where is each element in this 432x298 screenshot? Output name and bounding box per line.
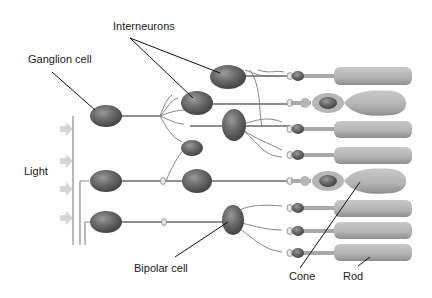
rod — [291, 67, 412, 85]
interneuron-cell — [181, 91, 213, 115]
cone — [291, 91, 406, 116]
interneuron-cell — [210, 65, 246, 89]
cone — [291, 169, 406, 194]
bipolar-cell-body — [222, 205, 244, 235]
rod — [291, 222, 412, 239]
dendrites — [160, 70, 284, 252]
label-cone: Cone — [289, 270, 315, 282]
ganglion-cell — [90, 105, 122, 127]
ganglion-cell — [90, 170, 122, 192]
rod — [291, 200, 412, 217]
interneuron-cells — [181, 65, 246, 235]
interneuron-cell — [181, 140, 203, 156]
ganglion-axons — [73, 116, 92, 245]
light-arrow-icon — [60, 182, 73, 196]
light-arrow-icon — [60, 211, 73, 225]
rod — [291, 121, 412, 138]
label-bipolar-cell: Bipolar cell — [134, 262, 188, 274]
light-arrow-icon — [60, 122, 73, 136]
light-arrow-icon — [60, 154, 73, 168]
photoreceptors — [291, 67, 412, 261]
interneuron-cell — [182, 169, 212, 193]
label-ganglion-cell: Ganglion cell — [28, 53, 92, 65]
label-interneurons: Interneurons — [113, 20, 175, 32]
retina-diagram — [0, 0, 432, 298]
rod — [291, 244, 412, 261]
light-arrows — [60, 122, 73, 225]
interneuron-cell — [222, 109, 246, 141]
ganglion-cells — [90, 105, 122, 233]
label-light: Light — [24, 165, 48, 177]
label-rod: Rod — [343, 270, 363, 282]
ganglion-cell — [90, 211, 122, 233]
rod — [291, 147, 412, 164]
